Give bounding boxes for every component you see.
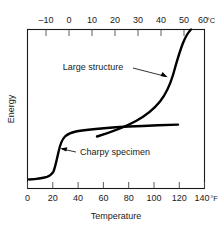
top-tick-label-0: –10: [38, 15, 53, 25]
annotation-large-structure: Large structure: [63, 62, 168, 77]
plot-frame: [28, 30, 205, 189]
top-tick-label-3: 20: [110, 15, 120, 25]
top-axis-tick-labels: –10 0 10 20 30 40 50 60 °C: [38, 15, 215, 25]
curve-large-structure: [97, 30, 191, 137]
x-axis-title: Temperature: [91, 211, 142, 221]
annotation-large-structure-label: Large structure: [63, 62, 124, 72]
top-axis-unit: °C: [207, 16, 216, 25]
top-axis-ticks: [46, 30, 184, 37]
bottom-tick-label-6: 120: [172, 193, 187, 203]
bottom-tick-label-7: 140: [194, 193, 209, 203]
bottom-axis-unit: °F: [210, 194, 218, 203]
top-tick-label-5: 40: [156, 15, 166, 25]
annotation-charpy-specimen-label: Charpy specimen: [80, 147, 150, 157]
bottom-axis-tick-labels: 0 20 40 60 80 100 120 140 °F: [25, 193, 218, 203]
top-tick-label-4: 30: [133, 15, 143, 25]
bottom-tick-label-2: 40: [73, 193, 83, 203]
annotation-charpy-specimen-arrowhead: [60, 147, 67, 151]
top-tick-label-1: 0: [66, 15, 71, 25]
chart-figure: –10 0 10 20 30 40 50 60 °C: [0, 0, 224, 233]
annotation-large-structure-arrowhead: [160, 72, 167, 77]
bottom-tick-label-3: 60: [98, 193, 108, 203]
bottom-tick-label-4: 80: [124, 193, 134, 203]
bottom-axis-ticks: [28, 182, 205, 189]
annotation-charpy-specimen: Charpy specimen: [60, 147, 150, 157]
top-tick-label-2: 10: [87, 15, 97, 25]
bottom-tick-label-5: 100: [146, 193, 161, 203]
top-tick-label-6: 50: [179, 15, 189, 25]
bottom-tick-label-1: 20: [48, 193, 58, 203]
y-axis-title: Energy: [6, 94, 16, 123]
bottom-tick-label-0: 0: [25, 193, 30, 203]
